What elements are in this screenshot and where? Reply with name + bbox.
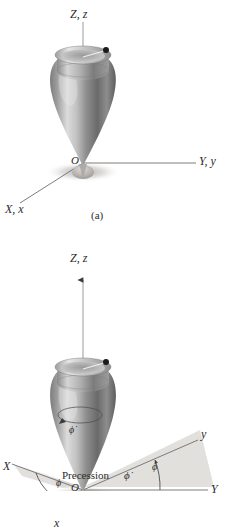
panel-b-caption-symbol: ϕ̇ [124,469,130,481]
precession-rate-label-panel-b: ϕ̇ [69,425,74,435]
top-rim-inner [61,50,105,63]
origin-label-panel-a: O [71,155,79,166]
origin-label-panel-b: O [71,482,79,493]
figure-panel-a: Z, z Y, y X, x O (a) [0,0,229,245]
axis-label-Y-panel-a: Y, y [199,155,216,167]
panel-a-caption: (a) [91,209,103,221]
rim-marker-dot [103,47,109,53]
figure-panel-b: Z, z Y y X x O ϕ ϕ ϕ̇ Precession ϕ̇ [0,240,229,491]
angle-label-right-panel-b: ϕ [152,462,157,472]
axis-label-x-body-panel-b: x [54,517,59,529]
pivot-point [79,490,87,491]
panel-b-graphics [0,240,229,491]
rim-marker-dot [103,359,109,365]
angle-label-left-panel-b: ϕ [56,478,61,488]
axis-label-Z-panel-b: Z, z [70,252,87,264]
axis-label-Z-panel-a: Z, z [70,8,87,20]
axis-label-Y-space-panel-b: Y [211,483,218,495]
top-rim-inner [61,362,105,375]
axis-label-X-space-panel-b: X [3,460,10,472]
axis-label-X-panel-a: X, x [5,203,24,215]
panel-b-caption-text: Precession [62,469,109,481]
axis-label-y-body-panel-b: y [201,428,206,440]
panel-a-graphics [0,0,229,245]
